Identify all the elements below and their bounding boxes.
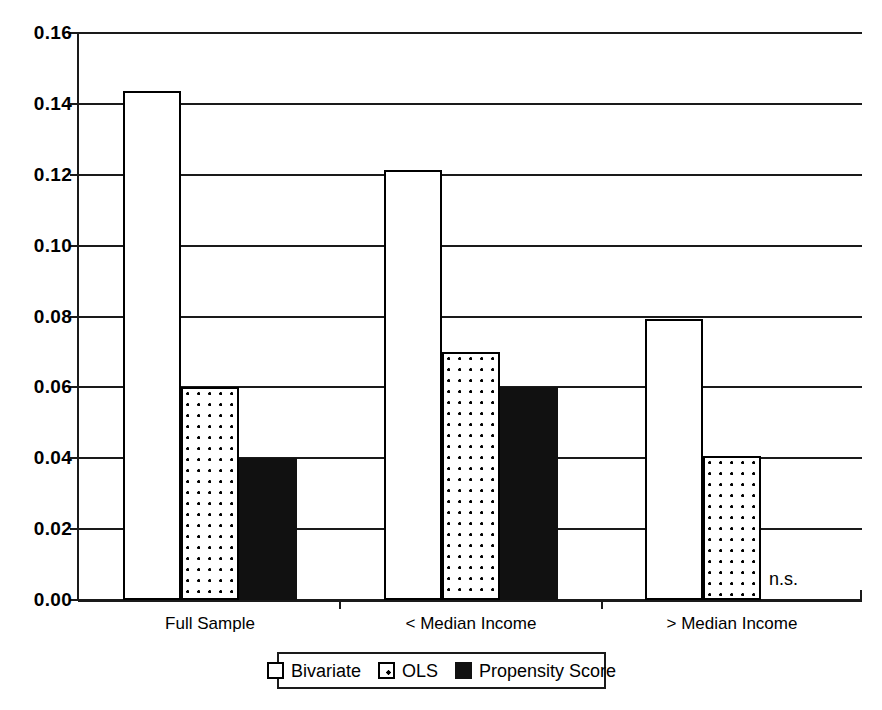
- legend-item-label: Propensity Score: [479, 662, 616, 680]
- y-axis-tick-label: 0.06: [4, 377, 72, 396]
- bar: [239, 458, 297, 600]
- bar: [442, 352, 500, 600]
- x-axis-category-tick: [601, 601, 603, 609]
- x-axis-category-tick: [339, 601, 341, 609]
- gridline: [78, 316, 862, 318]
- gridline: [78, 245, 862, 247]
- y-axis-tick-label: 0.12: [4, 165, 72, 184]
- bar: [384, 170, 442, 600]
- y-axis-tick-label: 0.02: [4, 519, 72, 538]
- legend-item: Bivariate: [267, 662, 361, 680]
- legend-item-label: OLS: [402, 662, 438, 680]
- y-axis-tick-label: 0.00: [4, 590, 72, 609]
- chart-legend: BivariateOLSPropensity Score: [277, 652, 606, 689]
- legend-item-label: Bivariate: [291, 662, 361, 680]
- bar: [123, 91, 181, 600]
- bar: [500, 387, 558, 600]
- x-axis-end-tick: [860, 590, 862, 600]
- y-axis-tick-label: 0.10: [4, 236, 72, 255]
- legend-item: OLS: [378, 662, 438, 680]
- legend-item: Propensity Score: [455, 662, 616, 680]
- y-axis-spine: [77, 32, 79, 601]
- bar: [703, 456, 761, 600]
- filled-square-icon: [455, 662, 472, 679]
- y-axis-tick-label: 0.04: [4, 448, 72, 467]
- bar: [645, 319, 703, 600]
- bar: [181, 387, 239, 600]
- y-axis-tick-label: 0.16: [4, 23, 72, 42]
- bar-chart: 0.000.020.040.060.080.100.120.140.16 Ful…: [0, 0, 882, 710]
- y-axis-tick-label: 0.14: [4, 94, 72, 113]
- not-significant-annotation: n.s.: [769, 570, 798, 588]
- x-axis-category-label: > Median Income: [602, 615, 862, 632]
- x-axis-category-label: Full Sample: [80, 615, 340, 632]
- dotted-square-icon: [378, 662, 395, 679]
- gridline: [78, 174, 862, 176]
- y-axis-tick-label: 0.08: [4, 307, 72, 326]
- gridline: [78, 32, 862, 34]
- open-square-icon: [267, 662, 284, 679]
- x-axis-category-label: < Median Income: [341, 615, 601, 632]
- gridline: [78, 103, 862, 105]
